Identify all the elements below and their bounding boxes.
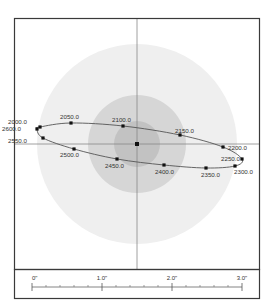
orbit-point-marker [115,157,118,160]
epoch-label: 2550.0 [8,137,27,144]
orbit-point-marker [240,157,243,160]
epoch-label: 2200.0 [228,144,247,151]
orbit-diagram: 2000.02050.02100.02150.02200.02250.02300… [0,0,273,308]
orbit-point-marker [204,166,207,169]
orbit-point-marker [38,125,41,128]
epoch-label: 2150.0 [175,127,194,134]
epoch-label: 2600.0 [2,125,21,132]
epoch-label: 2050.0 [60,113,79,120]
epoch-label: 2400.0 [155,168,174,175]
orbit-point-marker [121,124,124,127]
epoch-label: 2100.0 [112,116,131,123]
orbit-point-marker [69,121,72,124]
epoch-label: 2000.0 [8,118,27,125]
scale-label: 3.0" [237,275,247,281]
center-star-marker [135,142,139,146]
orbit-point-marker [221,145,224,148]
scale-label: 1.0" [97,275,107,281]
orbit-point-marker [41,136,44,139]
epoch-label: 2500.0 [60,151,79,158]
epoch-label: 2250.0 [221,155,240,162]
epoch-label: 2350.0 [201,171,220,178]
orbit-point-marker [35,127,38,130]
scale-label: 2.0" [167,275,177,281]
epoch-label: 2450.0 [105,162,124,169]
epoch-label: 2300.0 [234,168,253,175]
orbit-point-marker [162,163,165,166]
scale-label: 0" [32,275,37,281]
